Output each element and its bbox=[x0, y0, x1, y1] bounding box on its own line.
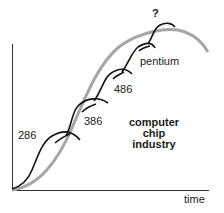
generation-label-386: 386 bbox=[84, 115, 102, 127]
diagram-title: computer chip industry bbox=[124, 117, 184, 150]
generation-label-286: 286 bbox=[18, 129, 36, 141]
industry-curve bbox=[12, 30, 208, 190]
s-curve-diagram: 286 386 486 pentium ? computer chip indu… bbox=[0, 0, 224, 213]
generation-label-next: ? bbox=[152, 7, 159, 19]
generation-label-486: 486 bbox=[114, 83, 132, 95]
generation-overlap-pentium bbox=[139, 46, 150, 51]
title-line-3: industry bbox=[124, 139, 184, 150]
generation-label-pentium: pentium bbox=[140, 55, 179, 67]
generation-overlap-486 bbox=[113, 72, 124, 79]
generation-curve-next bbox=[148, 23, 175, 44]
x-axis-label: time bbox=[184, 193, 205, 205]
generation-overlap-386 bbox=[82, 104, 96, 112]
diagram-canvas bbox=[0, 0, 224, 213]
